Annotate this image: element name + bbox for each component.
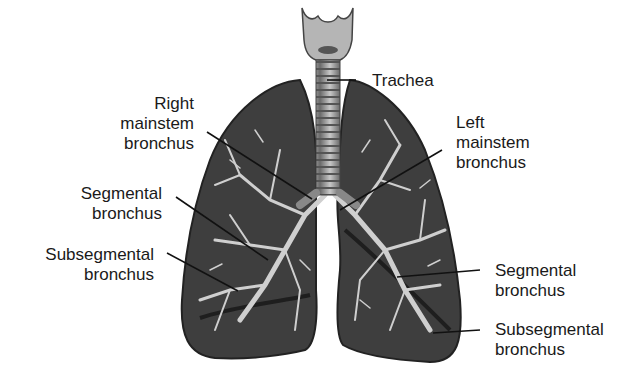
label-right-mainstem-bronchus: Right mainstem bronchus <box>100 94 194 154</box>
label-subsegmental-bronchus-right: Subsegmental bronchus <box>10 245 154 285</box>
label-trachea: Trachea <box>372 71 434 91</box>
label-segmental-bronchus-left: Segmental bronchus <box>495 261 576 301</box>
label-left-mainstem-bronchus: Left mainstem bronchus <box>456 113 530 173</box>
label-subsegmental-bronchus-left: Subsegmental bronchus <box>495 320 604 360</box>
label-segmental-bronchus-right: Segmental bronchus <box>40 184 162 224</box>
